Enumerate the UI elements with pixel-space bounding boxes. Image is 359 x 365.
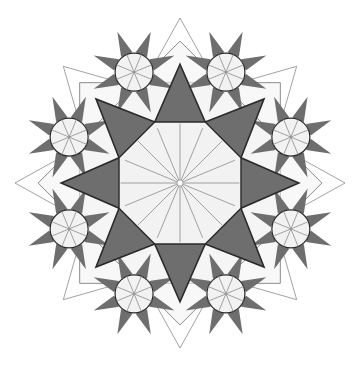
star-pattern-diagram	[0, 0, 359, 365]
center-rosette	[121, 124, 240, 243]
